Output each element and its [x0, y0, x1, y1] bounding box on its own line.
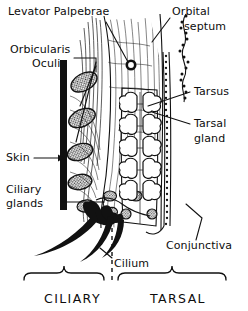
diagram-canvas: Levator Palpebrae Orbital septum Orbicul… [0, 0, 248, 311]
label-skin: Skin [6, 151, 30, 164]
label-orbital-septum-line1: Orbital [172, 5, 210, 18]
label-ciliary-glands-line2: glands [6, 197, 43, 210]
label-levator-palpebrae: Levator Palpebrae [8, 5, 110, 18]
label-conjunctiva: Conjunctiva [166, 239, 232, 252]
label-cilium: Cilium [114, 257, 149, 270]
gland-orifice-right [147, 209, 157, 219]
label-orbital-septum-line2: septum [184, 20, 226, 33]
label-tarsus: Tarsus [193, 85, 229, 98]
label-region-ciliary: CILIARY [44, 291, 101, 306]
label-tarsal-gland-line1: Tarsal [193, 117, 226, 130]
eyelid-sagittal-diagram: Levator Palpebrae Orbital septum Orbicul… [0, 0, 248, 311]
label-region-tarsal: TARSAL [149, 291, 206, 306]
label-tarsal-gland-line2: gland [194, 132, 225, 145]
label-orbicularis-line1: Orbicularis [10, 43, 71, 56]
label-orbicularis-line2: Oculi [32, 57, 60, 70]
label-ciliary-glands-line1: Ciliary [6, 183, 42, 196]
skin-band [60, 60, 67, 210]
